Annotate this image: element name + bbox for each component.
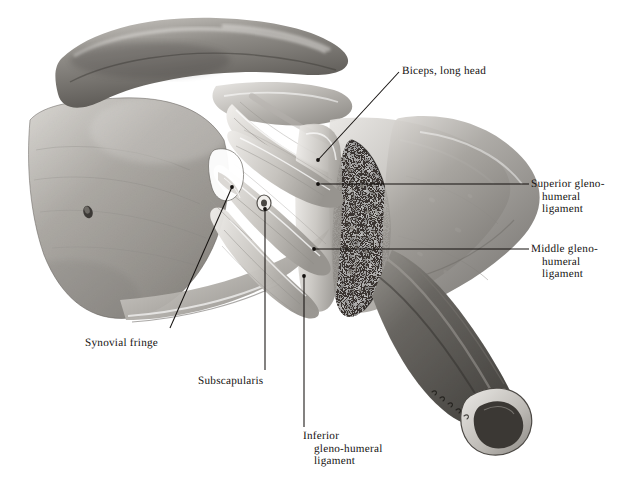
label-biceps-line1: Biceps, long head: [402, 65, 486, 77]
label-middle-line3: ligament: [531, 268, 598, 281]
label-middle-gleno-humeral-ligament: Middle gleno-humeralligament: [531, 243, 598, 281]
label-biceps-long-head: Biceps, long head: [402, 65, 486, 78]
label-inferior-line3: ligament: [303, 455, 383, 468]
label-superior-line2: humeral: [531, 191, 605, 204]
label-subscapularis: Subscapularis: [198, 375, 263, 388]
humeral-shaft-cut-surface: [461, 388, 532, 455]
label-inferior-gleno-humeral-ligament: Inferiorgleno-humeralligament: [303, 430, 383, 468]
anatomical-plate: Biceps, long head Superior gleno-humeral…: [0, 0, 640, 488]
label-synovial-fringe: Synovial fringe: [85, 337, 158, 350]
label-middle-line2: humeral: [531, 256, 598, 269]
label-superior-line3: ligament: [531, 203, 605, 216]
label-superior-gleno-humeral-ligament: Superior gleno-humeralligament: [531, 178, 605, 216]
label-inferior-line1: Inferior: [303, 430, 339, 442]
glenoid-cavity-edge: [295, 124, 342, 312]
label-subscapularis-line1: Subscapularis: [198, 375, 263, 387]
label-superior-line1: Superior gleno-: [531, 178, 605, 190]
label-middle-line1: Middle gleno-: [531, 243, 598, 255]
label-inferior-line2: gleno-humeral: [303, 443, 383, 456]
label-synovial-line1: Synovial fringe: [85, 337, 158, 349]
